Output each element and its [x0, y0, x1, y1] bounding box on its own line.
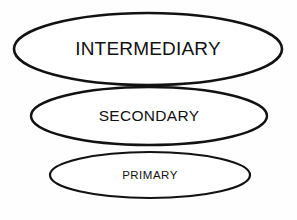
ellipse-stack-diagram: INTERMEDIARY SECONDARY PRIMARY — [0, 0, 297, 220]
ellipse-label-secondary: SECONDARY — [99, 107, 200, 124]
ellipse-group-secondary[interactable]: SECONDARY — [31, 87, 267, 145]
ellipse-label-primary: PRIMARY — [122, 169, 178, 181]
diagram-canvas: INTERMEDIARY SECONDARY PRIMARY — [0, 0, 297, 220]
ellipse-group-primary[interactable]: PRIMARY — [50, 152, 250, 198]
ellipse-label-intermediary: INTERMEDIARY — [75, 38, 221, 59]
ellipse-group-intermediary[interactable]: INTERMEDIARY — [14, 13, 282, 85]
